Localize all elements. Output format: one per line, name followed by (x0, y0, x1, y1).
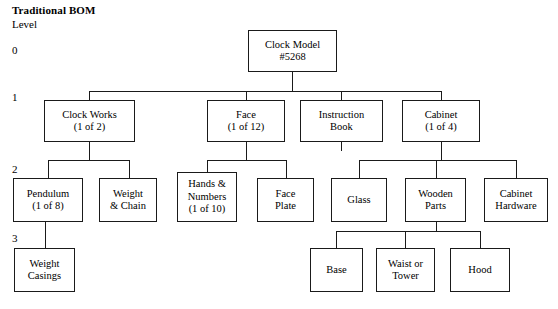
bom-node-cabinet-hardware[interactable]: CabinetHardware (484, 178, 548, 222)
connector-cabinet-bus (359, 160, 516, 161)
bom-node-label: Base (326, 264, 346, 277)
connector-clock-works-bus (48, 160, 130, 161)
bom-node-label: Plate (275, 200, 296, 213)
connector-drop-pendulum (48, 160, 49, 178)
bom-node-weight-casings[interactable]: WeightCasings (14, 248, 75, 292)
level-marker-0: 0 (12, 44, 18, 56)
connector-drop-hands-numbers (207, 160, 208, 172)
connector-drop-weight-chain (129, 160, 130, 178)
bom-node-cabinet[interactable]: Cabinet(1 of 4) (402, 100, 480, 142)
connector-drop-wooden-parts (436, 160, 437, 178)
bom-node-label: Clock Works (62, 109, 117, 122)
bom-node-label: Hardware (495, 200, 536, 213)
bom-node-label: Clock Model (265, 39, 320, 52)
connector-drop-glass (359, 160, 360, 178)
bom-node-pendulum[interactable]: Pendulum(1 of 8) (13, 178, 83, 222)
connector-drop-clock-works (89, 91, 90, 100)
bom-node-label: (1 of 12) (228, 121, 265, 134)
bom-node-label: Wooden (418, 188, 453, 201)
bom-node-label: Book (330, 121, 353, 134)
bom-diagram-canvas: Traditional BOM Level 0123 Clock Model#5… (0, 0, 558, 309)
connector-drop-cabinet-hardware (516, 160, 517, 178)
bom-node-label: & Chain (110, 200, 146, 213)
connector-level3-bus (336, 231, 480, 232)
bom-node-weight-chain[interactable]: Weight& Chain (99, 178, 157, 222)
bom-node-label: Waist or (388, 258, 423, 271)
level-axis-label: Level (12, 18, 37, 30)
bom-node-instruction-book[interactable]: InstructionBook (300, 100, 383, 142)
bom-node-label: Pendulum (27, 188, 70, 201)
bom-node-label: Numbers (188, 191, 227, 204)
bom-node-label: Weight (113, 188, 143, 201)
connector-drop-hood (480, 231, 481, 248)
bom-node-label: Hood (468, 264, 491, 277)
bom-node-label: Cabinet (500, 188, 533, 201)
bom-node-label: Hands & (188, 178, 226, 191)
connector-pendulum-stem (45, 222, 46, 248)
bom-node-wooden-parts[interactable]: WoodenParts (405, 178, 466, 222)
page-title: Traditional BOM (12, 4, 96, 16)
bom-node-label: (1 of 8) (32, 200, 64, 213)
bom-node-label: Casings (28, 270, 61, 283)
bom-node-label: Face (236, 109, 256, 122)
connector-drop-base (336, 231, 337, 248)
bom-node-face-plate[interactable]: FacePlate (257, 178, 314, 222)
bom-node-clock-model[interactable]: Clock Model#5268 (248, 30, 337, 72)
bom-node-label: Weight (29, 258, 59, 271)
connector-drop-face-plate (286, 160, 287, 178)
bom-node-label: Glass (347, 194, 370, 207)
connector-root-stem-down (292, 72, 293, 91)
bom-node-label: Instruction (319, 109, 365, 122)
bom-node-face[interactable]: Face(1 of 12) (207, 100, 285, 142)
bom-node-label: Tower (392, 270, 419, 283)
connector-drop-instruction-book (341, 91, 342, 100)
bom-node-label: Parts (425, 200, 446, 213)
bom-node-label: Cabinet (425, 109, 458, 122)
connector-face-bus (207, 160, 286, 161)
bom-node-base[interactable]: Base (310, 248, 363, 292)
connector-cabinet-stem (441, 142, 442, 160)
bom-node-waist-or-tower[interactable]: Waist orTower (376, 248, 435, 292)
connector-drop-cabinet (441, 91, 442, 100)
level-marker-2: 2 (12, 163, 18, 175)
bom-node-label: (1 of 2) (74, 121, 106, 134)
level-marker-1: 1 (12, 91, 18, 103)
connector-drop-waist-or-tower (405, 231, 406, 248)
connector-drop-face (246, 91, 247, 100)
level-marker-3: 3 (12, 232, 18, 244)
bom-node-clock-works[interactable]: Clock Works(1 of 2) (44, 100, 135, 142)
connector-instruction-book-stem (341, 142, 342, 151)
connector-level1-bus (89, 91, 441, 92)
bom-node-label: (1 of 10) (189, 203, 226, 216)
bom-node-hood[interactable]: Hood (450, 248, 510, 292)
bom-node-glass[interactable]: Glass (331, 178, 387, 222)
connector-wooden-parts-stem (436, 222, 437, 231)
bom-node-label: Face (276, 188, 296, 201)
bom-node-label: #5268 (279, 51, 305, 64)
connector-clock-works-stem (89, 142, 90, 160)
connector-face-stem (246, 142, 247, 160)
bom-node-hands-numbers[interactable]: Hands &Numbers(1 of 10) (177, 172, 237, 222)
bom-node-label: (1 of 4) (425, 121, 457, 134)
